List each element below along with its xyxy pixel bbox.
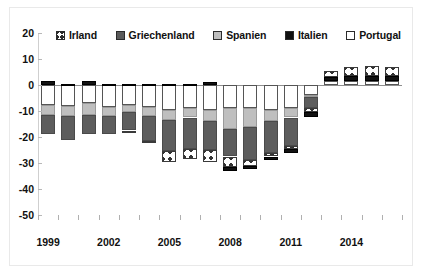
bar-segment-italien [304,112,318,117]
bar-column [61,33,75,215]
bar-column [264,33,278,215]
y-tick-label: 20 [4,27,34,39]
bar-segment-portugal [61,85,75,106]
bar-segment-spanien [203,110,217,122]
bar-column [102,33,116,215]
bar-column [162,33,176,215]
bar-segment-irland [324,71,338,78]
bar-segment-portugal [264,85,278,110]
bar-segment-irland [203,150,217,162]
x-tick-label: 1999 [36,236,59,248]
y-tick-mark [38,59,42,60]
bar-segment-griechenland [122,112,136,130]
bar-segment-spanien [41,105,55,115]
bar-segment-portugal [102,85,116,107]
bar-segment-portugal [142,85,156,107]
x-tick-mark [301,215,302,220]
bars-container [38,33,402,215]
bar-column [142,33,156,215]
bar-segment-spanien [183,108,197,117]
bar-segment-griechenland [82,115,96,135]
bar-segment-irland [142,141,156,143]
bar-segment-portugal [82,85,96,103]
bar-column [365,33,379,215]
x-tick-label: 2008 [218,236,241,248]
bar-segment-griechenland [243,127,257,161]
bar-segment-italien [41,81,55,85]
x-tick-mark [382,215,383,220]
bar-segment-griechenland [41,115,55,135]
y-tick-label: 0 [4,79,34,91]
bar-segment-griechenland [183,118,197,149]
bar-segment-italien [61,84,75,86]
x-tick-mark [240,215,241,220]
bar-segment-italien [365,76,379,81]
x-tick-mark [402,215,403,220]
bar-segment-spanien [122,105,136,113]
bar-segment-irland [223,157,237,167]
x-tick-mark [38,215,39,220]
y-tick-mark [38,189,42,190]
bar-segment-irland [183,149,197,159]
y-axis-labels: 20100-10-20-30-40-50 [0,33,34,215]
bar-segment-portugal [223,85,237,108]
bar-segment-griechenland [102,116,116,134]
bar-segment-spanien [82,103,96,115]
x-tick-mark [119,215,120,220]
x-tick-mark [362,215,363,220]
bar-column [243,33,257,215]
x-tick-mark [220,215,221,220]
y-tick-label: -40 [4,183,34,195]
bar-segment-portugal [284,85,298,108]
bar-segment-griechenland [203,121,217,150]
bar-segment-spanien [223,108,237,129]
bar-column [82,33,96,215]
bar-segment-spanien [264,110,278,122]
x-tick-mark [139,215,140,220]
bar-segment-irland [122,131,136,133]
x-tick-mark [321,215,322,220]
bar-segment-italien [223,167,237,171]
bar-column [41,33,55,215]
bar-column [304,33,318,215]
bar-segment-italien [122,84,136,86]
y-tick-mark [38,33,42,34]
bar-segment-italien [102,84,116,86]
bar-segment-portugal [41,85,55,105]
bar-column [223,33,237,215]
bar-segment-italien [344,76,358,81]
bar-segment-griechenland [264,121,278,152]
bar-segment-portugal [385,81,399,85]
bar-segment-portugal [183,85,197,108]
y-tick-label: -10 [4,105,34,117]
bar-segment-italien [142,84,156,86]
bar-column [324,33,338,215]
bar-segment-spanien [284,108,298,117]
bar-segment-spanien [102,107,116,116]
x-tick-mark [58,215,59,220]
bar-segment-portugal [162,85,176,110]
y-tick-mark [38,163,42,164]
chart-screenshot: Irland Griechenland Spanien Italien Port… [0,0,423,275]
bar-segment-portugal [324,81,338,85]
bar-segment-portugal [122,85,136,105]
bar-segment-italien [264,157,278,161]
bar-segment-irland [162,151,176,161]
x-axis-ticks [38,215,402,221]
y-tick-label: -20 [4,131,34,143]
x-tick-mark [341,215,342,220]
bar-segment-griechenland [162,120,176,151]
bar-segment-italien [385,76,399,81]
bar-segment-italien [203,82,217,85]
bar-column [284,33,298,215]
bar-segment-portugal [344,81,358,85]
bar-segment-italien [183,84,197,86]
bar-segment-italien [284,149,298,153]
bar-column [203,33,217,215]
bar-segment-irland [344,67,358,76]
x-tick-mark [99,215,100,220]
bar-segment-spanien [142,107,156,116]
bar-segment-irland [385,67,399,76]
y-tick-label: -30 [4,157,34,169]
bar-column [344,33,358,215]
